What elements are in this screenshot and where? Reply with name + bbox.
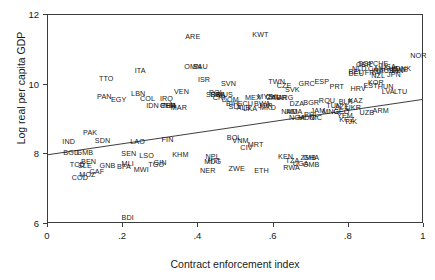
data-point-label: UZB xyxy=(360,110,375,117)
x-tick-label: .4 xyxy=(193,230,201,241)
data-point-label: SVK xyxy=(285,86,300,93)
data-point-label: KWT xyxy=(252,32,268,39)
data-point-label: GHA xyxy=(303,154,319,161)
x-tick-mark xyxy=(47,223,48,227)
data-point-label: ARE xyxy=(185,33,200,40)
data-point-label: ETH xyxy=(254,167,269,174)
data-point-label: THA xyxy=(162,103,177,110)
scatter-chart: Log real per capita GDP AREKWTOMNSAUNORI… xyxy=(0,0,435,280)
y-tick-label: 8 xyxy=(34,148,39,159)
x-tick-mark xyxy=(348,223,349,227)
data-point-label: CIV xyxy=(240,144,252,151)
data-point-label: SEN xyxy=(121,151,136,158)
data-point-label: LAO xyxy=(130,139,145,146)
data-point-label: LTU xyxy=(394,89,407,96)
data-point-label: GMB xyxy=(303,161,320,168)
x-axis-title: Contract enforcement index xyxy=(47,258,423,270)
data-point-label: NOR xyxy=(410,52,426,59)
data-point-label: GIN xyxy=(154,159,167,166)
data-point-label: IND xyxy=(62,139,75,146)
data-point-label: COD xyxy=(72,174,88,181)
y-tick-mark xyxy=(43,14,47,15)
data-point-label: SAU xyxy=(193,63,208,70)
data-point-label: ITA xyxy=(135,68,146,75)
data-point-label: ARM xyxy=(373,107,389,114)
x-tick-mark xyxy=(273,223,274,227)
data-point-label: ESP xyxy=(314,78,329,85)
data-point-label: IDN xyxy=(146,103,159,110)
x-tick-label: 1 xyxy=(420,230,425,241)
data-point-label: PAN xyxy=(97,93,112,100)
x-tick-mark xyxy=(197,223,198,227)
x-tick-label: 0 xyxy=(44,230,49,241)
data-point-label: GRC xyxy=(299,80,315,87)
data-point-label: ZWE xyxy=(229,165,245,172)
x-tick-mark xyxy=(122,223,123,227)
data-point-label: GMB xyxy=(77,149,94,156)
data-point-label: MLI xyxy=(122,160,134,167)
data-point-label: ISR xyxy=(198,77,210,84)
plot-area: AREKWTOMNSAUNORITATTOISRCHEUSAGBRSGPAUTD… xyxy=(47,14,423,223)
y-tick-mark xyxy=(43,153,47,154)
data-point-label: MKD xyxy=(260,104,276,111)
data-point-label: LVA xyxy=(382,88,395,95)
y-tick-label: 12 xyxy=(28,9,39,20)
x-tick-label: .8 xyxy=(344,230,352,241)
data-point-label: PAK xyxy=(83,129,97,136)
data-point-label: LKA xyxy=(243,105,257,112)
y-tick-mark xyxy=(43,84,47,85)
x-tick-label: .2 xyxy=(118,230,126,241)
data-point-label: MDG xyxy=(204,158,221,165)
data-point-label: TJK xyxy=(344,119,357,126)
x-tick-mark xyxy=(423,223,424,227)
data-point-label: LSO xyxy=(139,152,154,159)
data-point-label: FIN xyxy=(162,136,174,143)
data-point-label: HRV xyxy=(351,85,366,92)
data-point-label: NER xyxy=(200,167,215,174)
y-tick-label: 10 xyxy=(28,78,39,89)
data-point-label: BDI xyxy=(122,214,134,221)
data-point-label: TTO xyxy=(99,76,114,83)
trend-line-layer xyxy=(48,15,422,222)
data-point-label: VEN xyxy=(174,89,189,96)
data-point-label: MDG xyxy=(298,114,315,121)
data-point-label: PRT xyxy=(329,84,344,91)
x-tick-label: .6 xyxy=(269,230,277,241)
data-point-label: RWA xyxy=(283,164,300,171)
y-axis-title: Log real per capita GDP xyxy=(15,13,27,163)
data-point-label: DEU xyxy=(349,71,364,78)
data-point-label: JPN xyxy=(387,71,401,78)
data-point-label: EGY xyxy=(111,97,126,104)
y-tick-label: 6 xyxy=(34,218,39,229)
data-point-label: KHM xyxy=(172,151,188,158)
data-point-label: SDN xyxy=(95,137,110,144)
data-point-label: SVN xyxy=(221,80,236,87)
data-point-label: MWI xyxy=(134,166,149,173)
